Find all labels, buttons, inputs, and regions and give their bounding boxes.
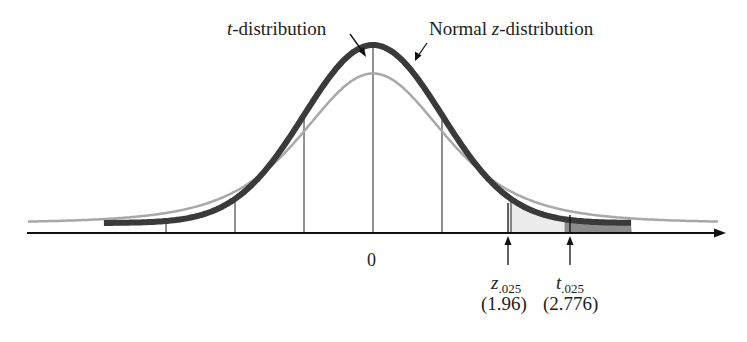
normal-distribution-curve	[104, 45, 631, 223]
zero-tick-label: 0	[367, 250, 376, 271]
t-distribution-label: t-distribution	[227, 18, 326, 40]
axis-arrowhead-icon	[714, 229, 726, 238]
t-critical-value: (2.776)	[543, 293, 598, 315]
z-label-pointer	[418, 43, 427, 56]
z-arrowhead-icon	[505, 236, 512, 245]
z-critical-value: (1.96)	[481, 293, 527, 315]
distribution-chart	[0, 0, 747, 342]
t-arrowhead-icon	[567, 236, 574, 245]
normal-distribution-label: Normal z-distribution	[429, 18, 593, 40]
